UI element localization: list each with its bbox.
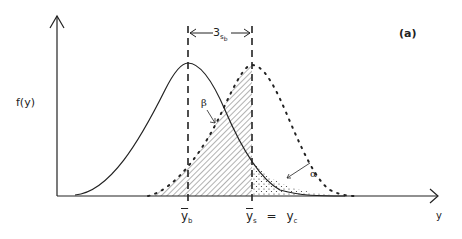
beta-label: β: [201, 97, 207, 108]
alpha-label: α: [310, 168, 317, 179]
alpha-pointer-line: [287, 163, 310, 178]
beta-region: [148, 65, 252, 196]
y-axis-label: f(y): [16, 96, 35, 109]
x-axis-label: y: [436, 210, 442, 221]
y-axis: [50, 16, 64, 196]
width-annotation: 3sb: [213, 26, 227, 43]
panel-label: (a): [399, 27, 416, 40]
beta-pointer-line: [207, 110, 215, 123]
distribution-diagram: (a) f(y) y 3sb β α yb ys = yc: [0, 0, 462, 239]
tick-label-mean-b: yb: [181, 209, 193, 225]
tick-label-mean-s-equals-yc: ys = yc: [246, 209, 297, 225]
